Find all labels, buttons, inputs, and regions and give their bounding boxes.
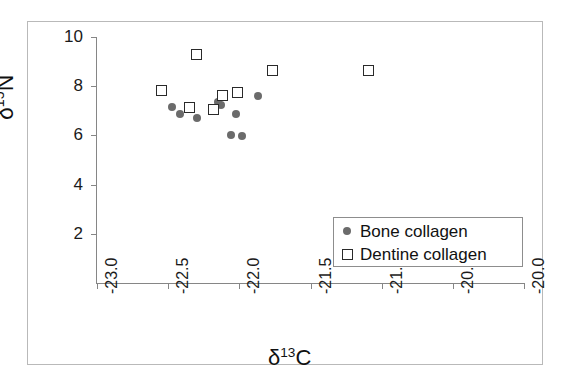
scatter-plot-figure: δ15N δ13C 246810 -23.0-22.5-22.0-21.5-21…: [0, 0, 570, 386]
legend: Bone collagen Dentine collagen: [333, 217, 523, 267]
legend-item-dentine-collagen: Dentine collagen: [334, 242, 522, 266]
x-axis-label: δ13C: [268, 347, 311, 369]
data-point: [254, 92, 262, 100]
legend-item-label: Dentine collagen: [360, 246, 487, 263]
y-tick-label: 2: [43, 225, 83, 242]
data-point: [193, 114, 201, 122]
x-tick-mark: [239, 283, 240, 289]
legend-item-label: Bone collagen: [360, 223, 468, 240]
x-axis-label-delta: δ: [268, 345, 280, 370]
x-tick-mark: [97, 283, 98, 289]
x-tick-mark: [168, 283, 169, 289]
data-point: [267, 65, 278, 76]
data-point: [363, 65, 374, 76]
open-square-icon: [334, 244, 360, 264]
data-point: [184, 102, 195, 113]
y-tick-label: 6: [43, 126, 83, 143]
data-point: [217, 90, 228, 101]
data-point: [232, 110, 240, 118]
x-axis-label-superscript: 13: [280, 345, 295, 360]
y-axis-label-delta: δ: [0, 107, 18, 120]
filled-circle-icon: [334, 221, 360, 241]
x-tick-mark: [453, 283, 454, 289]
data-point: [156, 85, 167, 96]
data-point: [227, 131, 235, 139]
y-tick-label: 4: [43, 176, 83, 193]
y-tick-label: 8: [43, 77, 83, 94]
data-point: [238, 132, 246, 140]
x-axis-label-element: C: [295, 345, 311, 370]
y-axis-label: δ15N: [0, 75, 17, 120]
legend-item-bone-collagen: Bone collagen: [334, 219, 522, 243]
data-point: [168, 103, 176, 111]
y-axis-label-superscript: 15: [0, 91, 7, 107]
x-tick-mark: [382, 283, 383, 289]
y-tick-label: 10: [43, 28, 83, 45]
data-point: [176, 110, 184, 118]
data-point: [208, 104, 219, 115]
x-tick-mark: [311, 283, 312, 289]
x-tick-mark: [524, 283, 525, 289]
data-point: [232, 87, 243, 98]
data-point: [191, 49, 202, 60]
y-axis-label-element: N: [0, 75, 18, 92]
x-tick-label: -20.0: [531, 258, 547, 294]
